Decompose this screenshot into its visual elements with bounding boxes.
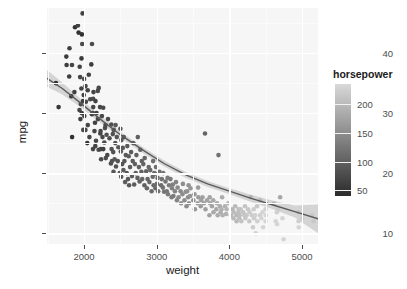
x-tick-label: 5000: [291, 251, 312, 262]
scatter-point: [87, 135, 92, 140]
scatter-point: [281, 237, 286, 242]
scatter-point: [121, 146, 126, 151]
gridline-minor-horizontal: [47, 83, 318, 84]
scatter-point: [175, 185, 180, 190]
scatter-point: [203, 207, 208, 212]
scatter-point: [126, 154, 131, 159]
scatter-point: [207, 213, 212, 218]
scatter-point: [67, 46, 72, 51]
scatter-point: [216, 153, 221, 158]
scatter-point: [64, 54, 69, 59]
scatter-point: [145, 186, 150, 191]
scatter-point: [107, 136, 112, 141]
gridline-major-vertical: [84, 8, 85, 244]
scatter-point: [111, 132, 116, 137]
gridline-major-vertical: [157, 8, 158, 244]
scatter-point: [67, 74, 72, 79]
gridline-minor-horizontal: [47, 143, 318, 144]
scatter-point: [211, 198, 216, 203]
scatter-point: [148, 168, 153, 173]
scatter-point: [114, 164, 119, 169]
y-tick-label: 40: [382, 48, 393, 59]
scatter-point: [128, 165, 133, 170]
chart-container: 10203040 2000300040005000 weight mpg hor…: [0, 0, 407, 289]
x-tick-mark: [84, 245, 85, 249]
scatter-point: [78, 75, 83, 80]
scatter-point: [141, 162, 146, 167]
x-tick-mark: [157, 245, 158, 249]
scatter-point: [253, 213, 258, 218]
legend-tick-label: 100: [357, 156, 373, 167]
scatter-point: [133, 162, 138, 167]
legend-tick-mark: [335, 104, 351, 105]
scatter-point: [85, 88, 90, 93]
gridline-major-vertical: [229, 8, 230, 244]
gridline-minor-vertical: [120, 8, 121, 244]
scatter-point: [181, 182, 186, 187]
scatter-point: [203, 131, 208, 136]
scatter-point: [101, 147, 106, 152]
plot-layers: [47, 8, 318, 244]
gridline-minor-horizontal: [47, 203, 318, 204]
gridline-major-horizontal: [47, 233, 318, 234]
scatter-point: [93, 144, 98, 149]
scatter-point: [147, 180, 152, 185]
scatter-point: [93, 99, 98, 104]
scatter-point: [79, 86, 84, 91]
scatter-point: [239, 219, 244, 224]
scatter-point: [224, 207, 229, 212]
gridline-major-horizontal: [47, 173, 318, 174]
x-tick-label: 4000: [219, 251, 240, 262]
scatter-point: [98, 129, 103, 134]
gridline-minor-vertical: [193, 8, 194, 244]
scatter-point: [70, 63, 75, 68]
scatter-point: [188, 194, 193, 199]
gridline-major-horizontal: [47, 113, 318, 114]
gridline-minor-vertical: [48, 8, 49, 244]
gridline-major-horizontal: [47, 53, 318, 54]
scatter-point: [275, 222, 280, 227]
scatter-point: [210, 204, 215, 209]
scatter-point: [142, 156, 147, 161]
scatter-point: [122, 159, 127, 164]
x-tick-mark: [302, 245, 303, 249]
y-tick-mark: [42, 233, 46, 234]
scatter-point: [196, 185, 201, 190]
scatter-point: [161, 185, 166, 190]
scatter-point: [91, 90, 96, 95]
x-tick-label: 3000: [146, 251, 167, 262]
scatter-point: [64, 63, 69, 68]
scatter-point: [237, 213, 242, 218]
trend-line: [47, 78, 318, 219]
gridline-major-vertical: [302, 8, 303, 244]
scatter-point: [259, 216, 264, 221]
scatter-point: [100, 135, 105, 140]
scatter-point: [125, 144, 130, 149]
scatter-point: [247, 219, 252, 224]
scatter-point: [149, 189, 154, 194]
scatter-point: [77, 65, 82, 70]
scatter-point: [111, 150, 116, 155]
legend-colorbar-wrap: 50100150200: [333, 84, 403, 196]
gridline-minor-vertical: [266, 8, 267, 244]
legend-tick-label: 150: [357, 127, 373, 138]
scatter-point: [100, 114, 105, 119]
scatter-point: [182, 198, 187, 203]
scatter-point: [280, 216, 285, 221]
scatter-point: [151, 159, 156, 164]
scatter-point: [219, 207, 224, 212]
scatter-point: [101, 105, 106, 110]
scatter-point: [90, 42, 95, 47]
x-axis-title: weight: [47, 264, 318, 276]
scatter-point: [311, 219, 316, 224]
scatter-point: [136, 135, 141, 140]
scatter-point: [296, 225, 301, 230]
legend-tick-label: 200: [357, 99, 373, 110]
scatter-point: [176, 195, 181, 200]
scatter-point: [166, 192, 171, 197]
scatter-point: [106, 117, 111, 122]
scatter-point: [137, 165, 142, 170]
scatter-point: [78, 117, 83, 122]
scatter-point: [113, 123, 118, 128]
scatter-point: [174, 180, 179, 185]
